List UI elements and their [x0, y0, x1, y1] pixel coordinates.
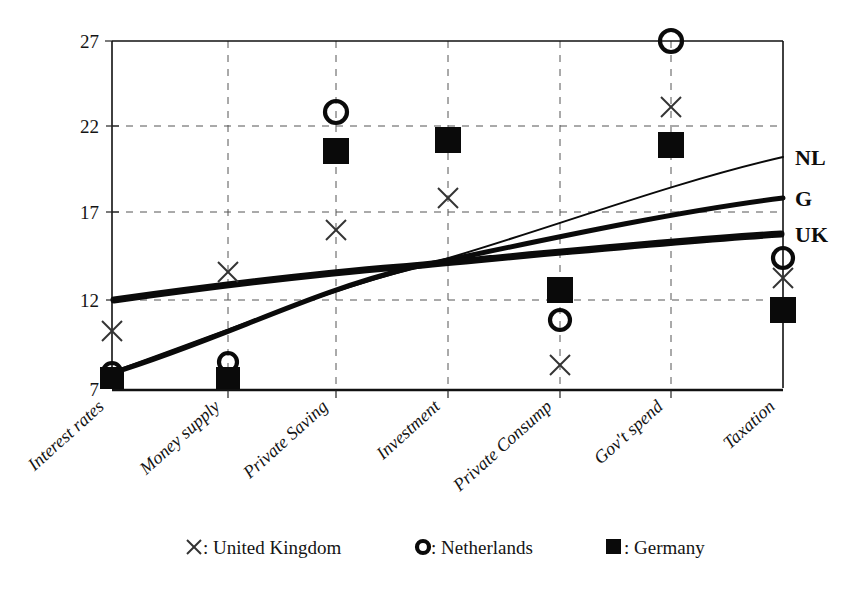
cross-marker-icon	[187, 540, 201, 554]
curve-label-uk: UK	[795, 222, 828, 247]
x-category-label-private-saving: Private Saving	[238, 396, 331, 483]
legend-item-netherlands: : Netherlands	[417, 537, 533, 558]
marker-square	[435, 127, 461, 153]
legend-label-netherlands: : Netherlands	[431, 537, 533, 558]
y-tick-label-12: 12	[80, 290, 99, 311]
marker-square	[323, 138, 349, 164]
square-marker-icon	[606, 539, 621, 554]
x-category-label-taxation: Taxation	[719, 396, 779, 453]
chart-container: 27 22 17 12 7 NL G UK	[0, 0, 862, 611]
marker-square	[547, 277, 573, 303]
y-axis-tick-labels: 27 22 17 12 7	[80, 31, 99, 400]
legend-item-germany: : Germany	[606, 537, 705, 558]
marker-square	[658, 132, 684, 158]
circle-marker-icon	[417, 541, 429, 553]
x-category-label-money-supply: Money supply	[135, 396, 224, 479]
economic-indicators-chart: 27 22 17 12 7 NL G UK	[0, 0, 862, 611]
marker-cross	[550, 355, 570, 375]
legend-label-united-kingdom: : United Kingdom	[203, 537, 341, 558]
marker-cross	[438, 188, 458, 208]
marker-square	[216, 367, 240, 389]
series-markers-netherlands	[103, 30, 793, 381]
x-category-label-private-consump: Private Consump	[448, 396, 555, 496]
curve-label-g: G	[795, 186, 812, 211]
x-category-label-interest-rates: Interest rates	[23, 396, 108, 475]
marker-square	[100, 367, 124, 389]
legend-item-united-kingdom: : United Kingdom	[187, 537, 341, 558]
x-category-label-govt-spend: Gov't spend	[590, 395, 668, 468]
y-tick-label-27: 27	[80, 31, 99, 52]
chart-legend: : United Kingdom : Netherlands : Germany	[187, 537, 705, 558]
y-tick-label-17: 17	[80, 202, 99, 223]
vertical-gridlines	[228, 41, 671, 388]
x-axis-ticks	[228, 390, 671, 398]
legend-label-germany: : Germany	[624, 537, 705, 558]
curve-label-nl: NL	[795, 145, 826, 170]
x-axis-category-labels: Interest rates Money supply Private Savi…	[23, 395, 779, 495]
x-category-label-investment: Investment	[372, 395, 445, 463]
marker-square	[770, 297, 796, 323]
curve-end-labels: NL G UK	[795, 145, 828, 247]
y-tick-label-22: 22	[80, 116, 99, 137]
